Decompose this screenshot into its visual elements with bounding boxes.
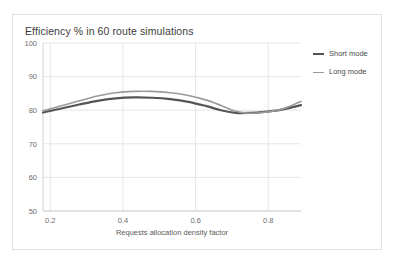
- y-tick-label: 100: [24, 39, 37, 48]
- y-tick-label: 60: [29, 173, 37, 182]
- legend-label-short-mode: Short mode: [329, 50, 368, 58]
- x-tick-label: 0.6: [190, 216, 200, 225]
- gridlines-group: [43, 43, 301, 211]
- legend-swatch-long-mode: [313, 72, 324, 73]
- y-tick-labels-group: 5060708090100: [24, 39, 37, 216]
- chart-card: Efficiency % in 60 route simulations 506…: [12, 14, 382, 250]
- x-axis-title: Requests allocation density factor: [116, 228, 229, 237]
- y-tick-label: 50: [29, 207, 37, 216]
- y-tick-label: 80: [29, 106, 37, 115]
- legend-item-long-mode[interactable]: Long mode: [313, 65, 394, 79]
- x-tick-labels-group: 0.20.40.60.8: [45, 216, 273, 225]
- x-tick-label: 0.8: [263, 216, 273, 225]
- y-tick-label: 90: [29, 72, 37, 81]
- chart-legend: Short mode Long mode: [313, 47, 394, 83]
- legend-swatch-short-mode: [313, 53, 324, 55]
- x-tick-label: 0.2: [45, 216, 55, 225]
- legend-label-long-mode: Long mode: [329, 68, 367, 76]
- y-tick-label: 70: [29, 140, 37, 149]
- x-tick-label: 0.4: [118, 216, 128, 225]
- legend-item-short-mode[interactable]: Short mode: [313, 47, 394, 61]
